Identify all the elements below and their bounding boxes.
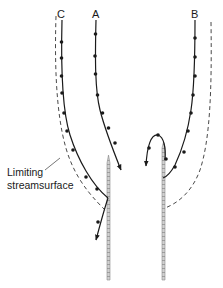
plate-right (162, 142, 165, 280)
limiting-streamsurface-right (165, 22, 211, 208)
streamline-c (60, 20, 108, 240)
label-limiting: Limiting (7, 166, 43, 178)
plate-left (107, 155, 110, 280)
streamline-diagram: C A B Limiting streamsurface (0, 0, 223, 288)
streamline-a (93, 20, 121, 170)
streamline-b (146, 20, 197, 178)
label-leader-line (45, 158, 60, 170)
label-c: C (57, 8, 65, 20)
label-b: B (191, 8, 198, 20)
label-a: A (92, 8, 99, 20)
diagram-graphics (0, 0, 223, 288)
label-streamsurface: streamsurface (7, 179, 74, 191)
